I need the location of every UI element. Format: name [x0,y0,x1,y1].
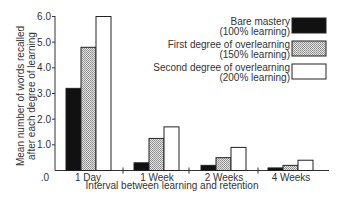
x-tick-label: 4 Weeks [272,172,311,183]
y-axis-ticks: .01.02.03.04.05.06.0 [37,11,55,183]
x-axis-title: Interval between learning and retention [86,180,259,191]
bar-group [201,147,246,170]
bar [231,147,246,170]
y-axis-title: Mean number of words recalled after each… [15,26,37,166]
y-axis-title-line-2: after each degree of learning [26,32,37,160]
y-tick-label: 3.0 [37,88,51,99]
legend-swatch [292,41,326,56]
y-axis-title-line-1: Mean number of words recalled [15,26,26,166]
bar [96,17,111,171]
y-tick-label: .0 [41,172,50,183]
y-tick-label: 1.0 [37,139,51,150]
bar [164,127,179,171]
bar [298,160,313,170]
bar-group [134,127,179,171]
bar [201,165,216,170]
bar-group [66,17,111,171]
bar [149,138,164,170]
bar-group [268,160,313,170]
legend-label: (150% learning) [219,49,290,60]
bar-chart: Mean number of words recalled after each… [0,0,344,204]
bar [268,168,283,171]
bar [66,88,81,170]
legend-swatch [292,18,326,33]
legend-item: First degree of overlearning(150% learni… [168,39,326,60]
legend: Bare mastery(100% learning)First degree … [153,16,326,83]
y-tick-label: 6.0 [37,11,51,22]
bar [283,165,298,170]
bar [81,47,96,170]
legend-swatch [292,64,326,79]
legend-item: Second degree of overlearning(200% learn… [153,62,326,83]
y-tick-label: 2.0 [37,114,51,125]
y-tick-label: 5.0 [37,37,51,48]
bar [216,158,231,171]
bar [134,163,149,171]
legend-label: (100% learning) [219,26,290,37]
y-tick-label: 4.0 [37,62,51,73]
legend-label: (200% learning) [219,72,290,83]
legend-item: Bare mastery(100% learning) [219,16,326,37]
